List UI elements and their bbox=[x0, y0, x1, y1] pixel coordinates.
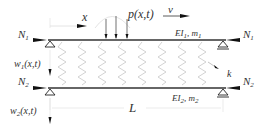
label-k: k bbox=[227, 68, 232, 79]
label-x: x bbox=[81, 10, 88, 24]
deflection-arrows bbox=[49, 50, 52, 124]
label-w1: w1(x,t) bbox=[14, 58, 41, 71]
roller-support-icon bbox=[217, 89, 229, 97]
label-load: p(x,t) bbox=[127, 7, 154, 21]
elastic-layer-springs bbox=[58, 42, 206, 85]
distributed-load bbox=[95, 16, 130, 39]
label-w2: w2(x,t) bbox=[10, 105, 37, 118]
label-length: L bbox=[128, 100, 136, 115]
label-beam1-props: EI1, m1 bbox=[174, 28, 202, 40]
label-beam2-props: EI2, m2 bbox=[171, 93, 199, 105]
pin-support-icon bbox=[45, 89, 55, 95]
pin-support-icon bbox=[45, 41, 55, 47]
label-n2-right: N2 bbox=[242, 75, 254, 89]
label-velocity: v bbox=[168, 3, 173, 15]
roller-support-icon bbox=[217, 41, 229, 49]
double-beam-diagram: N1 N1 N2 N2 x p(x,t) v EI1, m1 EI2, m2 w… bbox=[0, 0, 271, 132]
axial-force-arrows bbox=[33, 38, 240, 90]
label-n1-right: N1 bbox=[242, 28, 254, 42]
label-n2-left: N2 bbox=[17, 75, 29, 89]
label-n1-left: N1 bbox=[17, 28, 29, 42]
spring-pointer-arrow bbox=[208, 62, 219, 69]
